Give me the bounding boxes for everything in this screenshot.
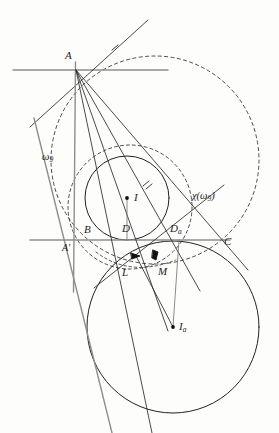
circle-omega9 [68,145,192,269]
tick-mark-upper-right [143,181,152,189]
label-point-l: L [122,267,128,278]
label-touchpoint-da: Da [170,223,182,234]
point-dot-excenter [171,325,175,329]
segment-ia-to-l [136,256,173,327]
point-dot-m [152,250,158,260]
line-a-through-incenter [76,70,168,331]
geometry-figure: A B C A' I Ia D Da L M ω9 χ(ω9) [0,0,279,433]
label-circle-omega9: ω9 [42,152,53,163]
label-vertex-a-prime: A' [62,243,70,253]
label-point-m: M [158,266,167,277]
label-incenter: I [134,192,138,203]
label-vertex-c: C [224,236,231,247]
label-vertex-b: B [84,224,91,235]
label-touchpoint-d: D [122,223,130,234]
label-chi-of-omega9: χ(ω9) [192,191,215,202]
label-excenter: Ia [179,321,186,332]
point-dot-l [131,253,140,259]
line-a-to-aprime [74,62,76,292]
segment-ia-to-da [173,240,179,327]
line-oblique-tangent [30,20,148,127]
geometry-canvas [0,0,279,433]
point-dot-incenter [125,196,129,200]
label-vertex-a: A [65,50,72,61]
